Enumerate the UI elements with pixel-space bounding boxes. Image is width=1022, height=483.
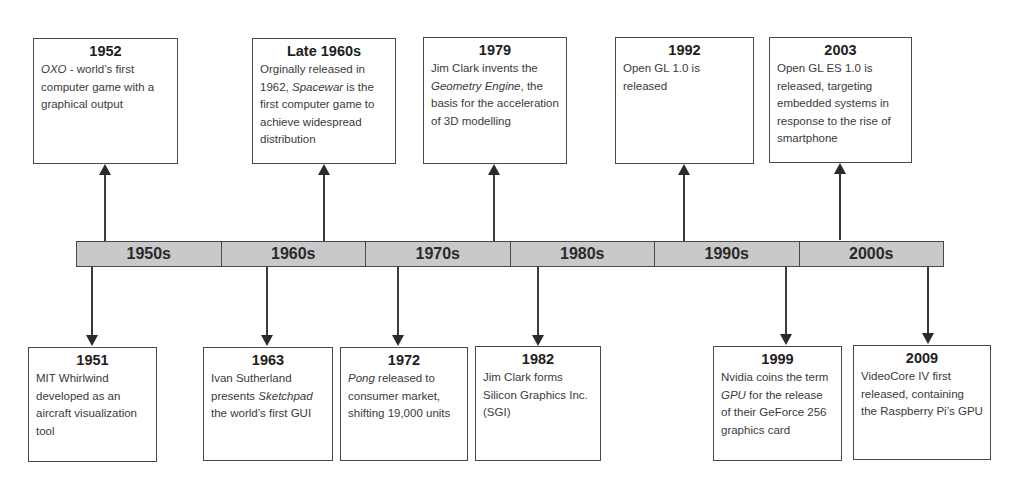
- event-year: 1972: [348, 352, 460, 369]
- event-box-1963: 1963 Ivan Sutherland presents Sketchpad …: [203, 347, 333, 461]
- connector-line: [397, 267, 399, 336]
- event-box-2009: 2009 VideoCore IV first released, contai…: [853, 345, 991, 460]
- timeline-diagram: 1952 OXO - world’s first computer game w…: [0, 0, 1022, 483]
- event-description: OXO - world’s first computer game with a…: [41, 61, 170, 114]
- connector-line: [683, 175, 685, 241]
- event-year: 1951: [36, 352, 149, 369]
- arrow-up-icon: [318, 164, 330, 175]
- event-description: Orginally released in 1962, Spacewar is …: [260, 61, 388, 149]
- decade-1990s: 1990s: [655, 242, 800, 266]
- arrow-up-icon: [678, 164, 690, 175]
- event-description: Open GL ES 1.0 is released, targeting em…: [777, 60, 904, 148]
- connector-line: [323, 175, 325, 241]
- event-description: Jim Clark invents the Geometry Engine, t…: [431, 60, 559, 130]
- event-description: Open GL 1.0 is released: [623, 60, 746, 95]
- connector-line: [493, 175, 495, 241]
- decade-1950s: 1950s: [77, 242, 222, 266]
- event-year: Late 1960s: [260, 43, 388, 60]
- arrow-down-icon: [261, 335, 273, 346]
- event-year: 1992: [623, 42, 746, 59]
- arrow-up-icon: [488, 164, 500, 175]
- event-box-2003: 2003 Open GL ES 1.0 is released, targeti…: [769, 37, 912, 163]
- event-description: Ivan Sutherland presents Sketchpad the w…: [211, 370, 325, 423]
- event-description: Jim Clark forms Silicon Graphics Inc. (S…: [483, 369, 593, 422]
- event-description: Pong released to consumer market, shifti…: [348, 370, 460, 423]
- event-box-1979: 1979 Jim Clark invents the Geometry Engi…: [423, 37, 567, 164]
- decade-1960s: 1960s: [222, 242, 367, 266]
- decade-1980s: 1980s: [511, 242, 656, 266]
- arrow-up-icon: [99, 164, 111, 175]
- arrow-down-icon: [922, 333, 934, 344]
- event-year: 1952: [41, 43, 170, 60]
- connector-line: [266, 267, 268, 336]
- connector-line: [91, 267, 93, 336]
- event-year: 1982: [483, 351, 593, 368]
- event-description: VideoCore IV first released, containing …: [861, 368, 983, 421]
- arrow-down-icon: [86, 335, 98, 346]
- decade-2000s: 2000s: [800, 242, 944, 266]
- arrow-down-icon: [392, 335, 404, 346]
- connector-line: [104, 175, 106, 241]
- event-year: 2003: [777, 42, 904, 59]
- event-box-1992: 1992 Open GL 1.0 is released: [615, 37, 754, 164]
- arrow-up-icon: [834, 163, 846, 174]
- event-year: 1999: [721, 351, 834, 368]
- arrow-down-icon: [780, 334, 792, 345]
- connector-line: [927, 266, 929, 334]
- event-description: MIT Whirlwind developed as an aircraft v…: [36, 370, 149, 440]
- event-box-1972: 1972 Pong released to consumer market, s…: [340, 347, 468, 461]
- event-year: 1979: [431, 42, 559, 59]
- event-description: Nvidia coins the term GPU for the releas…: [721, 369, 834, 439]
- event-box-1951: 1951 MIT Whirlwind developed as an aircr…: [28, 347, 157, 462]
- connector-line: [785, 266, 787, 335]
- event-year: 1963: [211, 352, 325, 369]
- arrow-down-icon: [532, 335, 544, 346]
- timeline-bar: 1950s 1960s 1970s 1980s 1990s 2000s: [76, 241, 944, 267]
- event-year: 2009: [861, 350, 983, 367]
- event-box-1999: 1999 Nvidia coins the term GPU for the r…: [713, 346, 842, 461]
- event-box-1982: 1982 Jim Clark forms Silicon Graphics In…: [475, 346, 601, 461]
- event-box-1952: 1952 OXO - world’s first computer game w…: [33, 38, 178, 164]
- connector-line: [839, 174, 841, 240]
- connector-line: [537, 267, 539, 336]
- event-box-late-1960s: Late 1960s Orginally released in 1962, S…: [252, 38, 396, 164]
- decade-1970s: 1970s: [366, 242, 511, 266]
